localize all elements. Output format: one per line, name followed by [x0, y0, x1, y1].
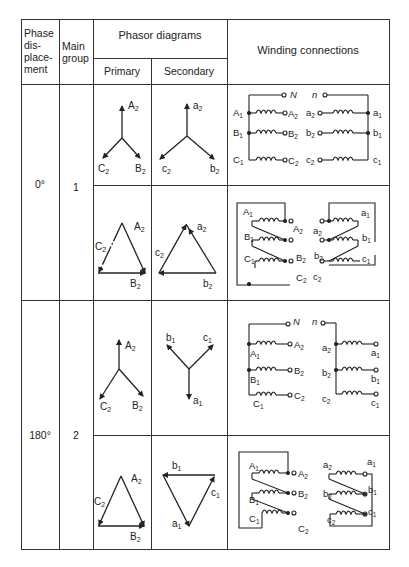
phasor-delta-secondary-0deg	[159, 224, 216, 273]
svg-text:N: N	[293, 316, 300, 327]
svg-text:c2: c2	[313, 271, 322, 283]
phasor-star-secondary-0deg	[160, 104, 214, 159]
phasor-delta-secondary-180deg	[163, 475, 215, 526]
svg-text:c2: c2	[162, 163, 171, 175]
label-A2: A2	[128, 100, 139, 112]
svg-text:c2: c2	[327, 514, 336, 526]
svg-text:a2: a2	[193, 100, 203, 112]
svg-text:C1: C1	[253, 398, 264, 410]
svg-text:a1: a1	[361, 207, 370, 219]
svg-text:A2: A2	[125, 340, 136, 352]
svg-text:b1: b1	[373, 127, 382, 139]
svg-text:b2: b2	[314, 250, 323, 262]
svg-text:c1: c1	[211, 487, 220, 499]
svg-text:b1: b1	[362, 232, 371, 244]
svg-text:b2: b2	[323, 488, 332, 500]
winding-delta-delta-180deg	[239, 452, 372, 528]
svg-text:B1: B1	[249, 494, 259, 506]
winding-delta-delta-0deg	[237, 203, 375, 286]
svg-text:c2: c2	[155, 247, 164, 259]
svg-text:B2: B2	[298, 488, 308, 500]
svg-text:A2: A2	[288, 108, 298, 120]
svg-text:b1: b1	[166, 332, 176, 344]
svg-text:A1: A1	[249, 460, 259, 472]
svg-text:a2: a2	[322, 342, 331, 354]
svg-text:n: n	[312, 89, 317, 100]
svg-text:B1: B1	[233, 127, 243, 139]
svg-text:b2: b2	[306, 127, 315, 139]
svg-text:B2: B2	[294, 365, 304, 377]
winding-star-star-180deg	[248, 321, 379, 397]
svg-text:B2: B2	[132, 400, 143, 412]
svg-text:c1: c1	[373, 154, 382, 166]
svg-text:a1: a1	[172, 518, 182, 530]
svg-text:b1: b1	[172, 460, 182, 472]
svg-text:C2: C2	[94, 496, 105, 508]
svg-text:B2: B2	[288, 128, 298, 140]
phasor-star-secondary-180deg	[167, 345, 213, 399]
svg-text:a1: a1	[193, 395, 203, 407]
svg-text:A2: A2	[293, 223, 303, 235]
svg-text:N: N	[290, 89, 297, 100]
svg-text:A2: A2	[134, 221, 145, 233]
svg-text:b2: b2	[322, 367, 331, 379]
svg-text:B1: B1	[250, 374, 260, 386]
svg-text:B2: B2	[130, 531, 141, 543]
svg-text:C1: C1	[249, 513, 260, 525]
svg-text:C2: C2	[298, 523, 309, 535]
svg-text:a2: a2	[306, 107, 315, 119]
svg-text:B2: B2	[296, 252, 306, 264]
svg-text:a1: a1	[373, 107, 382, 119]
svg-text:b2: b2	[210, 163, 220, 175]
svg-text:c1: c1	[203, 332, 212, 344]
svg-text:A1: A1	[243, 206, 253, 218]
svg-text:a1: a1	[371, 347, 380, 359]
phasor-star-primary-180deg	[100, 340, 143, 399]
svg-text:C2: C2	[296, 272, 307, 284]
svg-text:c1: c1	[368, 506, 377, 518]
svg-text:b1: b1	[368, 484, 377, 496]
svg-text:A2: A2	[298, 468, 308, 480]
svg-text:B2: B2	[130, 278, 141, 290]
svg-text:n: n	[312, 316, 317, 327]
phasor-star-primary-0deg	[103, 106, 140, 158]
svg-text:C2: C2	[100, 401, 111, 413]
svg-text:c2: c2	[306, 154, 315, 166]
svg-text:A1: A1	[233, 107, 243, 119]
diagrams-svg: A2 C2 B2 a2 c2 b2	[0, 0, 409, 567]
svg-text:a2: a2	[313, 225, 322, 237]
svg-text:b2: b2	[203, 278, 213, 290]
svg-text:a2: a2	[197, 221, 207, 233]
svg-text:A2: A2	[294, 339, 304, 351]
svg-text:c1: c1	[371, 397, 380, 409]
svg-text:C2: C2	[294, 390, 305, 402]
svg-text:C2: C2	[98, 163, 109, 175]
transformer-vector-group-table: Phase dis- place- ment Main group Phasor…	[0, 0, 409, 567]
svg-text:C2: C2	[95, 241, 106, 253]
svg-text:b1: b1	[371, 373, 380, 385]
svg-text:A2: A2	[131, 473, 142, 485]
svg-text:C1: C1	[233, 154, 244, 166]
svg-text:c2: c2	[322, 393, 331, 405]
svg-text:C2: C2	[288, 155, 299, 167]
svg-text:a1: a1	[367, 456, 376, 468]
svg-text:B1: B1	[244, 231, 254, 243]
svg-text:C1: C1	[244, 253, 255, 265]
svg-text:A1: A1	[250, 348, 260, 360]
svg-text:c1: c1	[362, 253, 371, 265]
svg-text:B2: B2	[135, 163, 146, 175]
svg-text:a2: a2	[323, 459, 332, 471]
